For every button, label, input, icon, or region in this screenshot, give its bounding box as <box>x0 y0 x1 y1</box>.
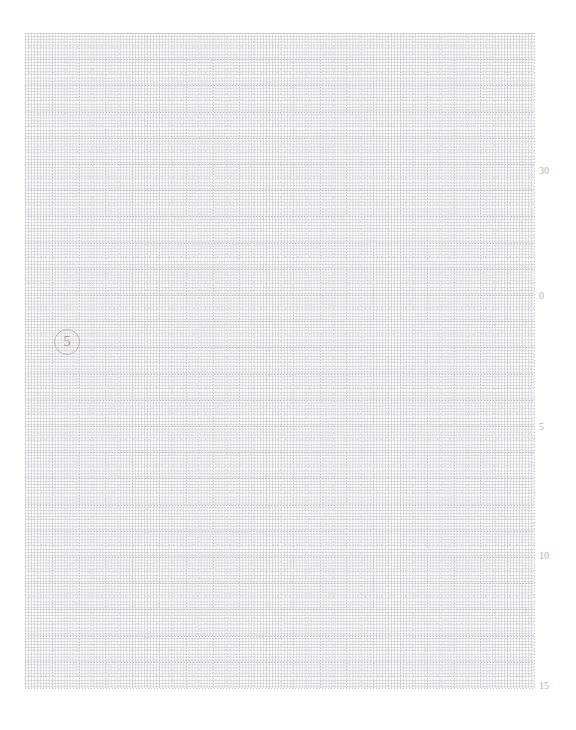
grid-line-horizontal-minor <box>25 439 534 440</box>
grid-line-horizontal-minor <box>25 596 534 597</box>
grid-line-horizontal <box>25 557 534 558</box>
grid-line-horizontal-minor <box>25 361 534 362</box>
axis-tick-label: 30 <box>539 166 549 176</box>
grid-line-horizontal <box>25 374 534 375</box>
grid-line-horizontal-minor <box>25 570 534 571</box>
grid-line-horizontal <box>25 583 534 584</box>
grid-line-horizontal-minor <box>25 518 534 519</box>
grid-line-horizontal <box>25 164 534 165</box>
graph-paper-page: 5 30051015 <box>0 0 576 730</box>
grid-line-horizontal-minor <box>25 544 534 545</box>
grid-line-horizontal-minor <box>25 492 534 493</box>
grid-line-horizontal <box>25 269 534 270</box>
grid-line-horizontal <box>25 531 534 532</box>
grid-line-horizontal <box>25 243 534 244</box>
grid-line-horizontal-minor <box>25 413 534 414</box>
axis-tick-label: 5 <box>539 422 544 432</box>
grid-line-horizontal-minor <box>25 465 534 466</box>
grid-line-horizontal <box>25 216 534 217</box>
grid-line-horizontal <box>25 400 534 401</box>
grid-line-horizontal-minor <box>25 203 534 204</box>
grid-line-horizontal <box>25 478 534 479</box>
grid-line-horizontal-minor <box>25 99 534 100</box>
circled-marker-label: 5 <box>64 335 71 349</box>
grid-line-horizontal <box>25 85 534 86</box>
grid-line-horizontal-minor <box>25 649 534 650</box>
grid-line-horizontal <box>25 295 534 296</box>
grid-line-horizontal-minor <box>25 125 534 126</box>
grid-line-horizontal-minor <box>25 308 534 309</box>
grid-line-horizontal <box>25 609 534 610</box>
axis-tick-label: 15 <box>539 681 549 691</box>
grid-sheet: 5 <box>25 33 534 688</box>
grid-line-horizontal <box>25 33 534 34</box>
grid-line-horizontal-minor <box>25 334 534 335</box>
grid-line-horizontal-minor <box>25 387 534 388</box>
circled-marker-5[interactable]: 5 <box>54 329 80 355</box>
grid-line-horizontal <box>25 426 534 427</box>
grid-line-horizontal <box>25 138 534 139</box>
grid-line-vertical <box>534 33 535 688</box>
grid-line-horizontal <box>25 636 534 637</box>
grid-line-horizontal-minor <box>25 282 534 283</box>
grid-line-horizontal <box>25 452 534 453</box>
grid-line-horizontal-minor <box>25 230 534 231</box>
grid-line-horizontal <box>25 688 534 689</box>
grid-line-horizontal <box>25 112 534 113</box>
grid-line-horizontal-minor <box>25 256 534 257</box>
grid-line-horizontal-minor <box>25 46 534 47</box>
grid-line-horizontal <box>25 662 534 663</box>
grid-line-horizontal-minor <box>25 623 534 624</box>
grid-line-horizontal <box>25 59 534 60</box>
grid-line-horizontal-minor <box>25 177 534 178</box>
grid-line-horizontal-minor <box>25 675 534 676</box>
grid-line-horizontal <box>25 321 534 322</box>
axis-tick-label: 10 <box>539 551 549 561</box>
grid-line-horizontal-minor <box>25 151 534 152</box>
grid-line-horizontal <box>25 190 534 191</box>
axis-tick-label: 0 <box>539 291 544 301</box>
grid-line-horizontal <box>25 347 534 348</box>
grid-line-horizontal <box>25 505 534 506</box>
grid-line-horizontal-minor <box>25 72 534 73</box>
